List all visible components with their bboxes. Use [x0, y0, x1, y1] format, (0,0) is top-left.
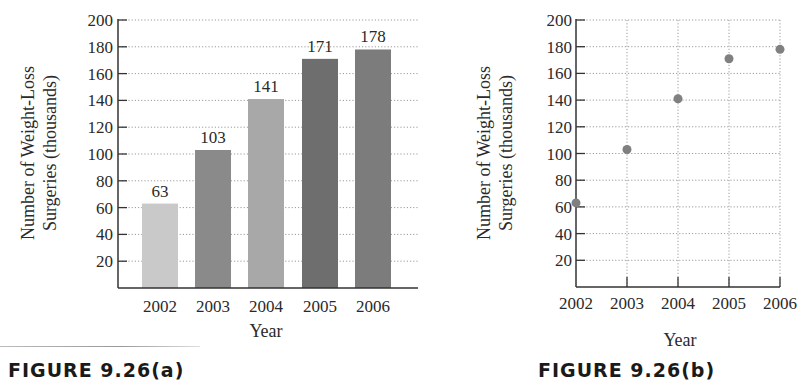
- svg-text:Number of Weight-Loss: Number of Weight-Loss: [474, 66, 494, 240]
- bar-value-label: 178: [360, 27, 386, 46]
- bar-chart-canvas: 2040608010012014016018020063200210320031…: [0, 0, 430, 388]
- bar-value-label: 103: [200, 128, 226, 147]
- divider-rule: [0, 346, 200, 347]
- y-tick-label: 180: [547, 38, 573, 57]
- bar-2003: [195, 150, 231, 288]
- svg-text:Number of Weight-Loss: Number of Weight-Loss: [18, 66, 38, 240]
- figure-b-scatter-plot: 2040608010012014016018020020022003200420…: [460, 0, 802, 388]
- y-tick-label: 80: [555, 171, 572, 190]
- y-tick-label: 100: [88, 145, 114, 164]
- y-tick-label: 140: [547, 91, 573, 110]
- figure-a-caption: FIGURE 9.26(a): [8, 359, 184, 381]
- x-tick-label: 2006: [763, 294, 797, 313]
- x-tick-label: 2003: [196, 297, 230, 316]
- data-point-2002: [572, 198, 581, 207]
- y-tick-label: 120: [547, 118, 573, 137]
- y-tick-label: 160: [88, 65, 114, 84]
- x-tick-label: 2003: [610, 294, 644, 313]
- x-tick-label: 2006: [356, 297, 390, 316]
- y-tick-label: 20: [96, 252, 113, 271]
- y-tick-label: 180: [88, 38, 114, 57]
- x-axis-label: Year: [663, 330, 696, 350]
- bar-value-label: 171: [307, 37, 333, 56]
- bar-value-label: 63: [152, 182, 169, 201]
- y-tick-label: 200: [547, 11, 573, 30]
- y-tick-label: 100: [547, 145, 573, 164]
- x-axis-label: Year: [249, 321, 282, 341]
- scatter-plot-canvas: 2040608010012014016018020020022003200420…: [460, 0, 802, 388]
- bar-2002: [142, 204, 178, 288]
- data-point-2003: [623, 145, 632, 154]
- y-tick-label: 140: [88, 91, 114, 110]
- svg-text:Surgeries (thousands): Surgeries (thousands): [496, 75, 517, 231]
- y-tick-label: 40: [555, 225, 572, 244]
- x-tick-label: 2002: [143, 297, 177, 316]
- x-tick-label: 2005: [303, 297, 337, 316]
- bar-2005: [302, 59, 338, 288]
- y-tick-label: 60: [555, 198, 572, 217]
- y-tick-label: 40: [96, 225, 113, 244]
- y-tick-label: 200: [88, 11, 114, 30]
- y-tick-label: 160: [547, 64, 573, 83]
- data-point-2006: [776, 45, 785, 54]
- figure-b-caption: FIGURE 9.26(b): [538, 359, 715, 381]
- svg-text:Surgeries (thousands): Surgeries (thousands): [40, 75, 61, 231]
- bar-value-label: 141: [253, 77, 279, 96]
- x-tick-label: 2005: [712, 294, 746, 313]
- figure-a-bar-chart: 2040608010012014016018020063200210320031…: [0, 0, 430, 388]
- x-tick-label: 2002: [559, 294, 593, 313]
- data-point-2004: [674, 94, 683, 103]
- data-point-2005: [725, 54, 734, 63]
- y-tick-label: 120: [88, 118, 114, 137]
- y-axis-label: Number of Weight-LossSurgeries (thousand…: [18, 66, 61, 240]
- y-tick-label: 20: [555, 251, 572, 270]
- x-tick-label: 2004: [661, 294, 696, 313]
- bar-2004: [248, 99, 284, 288]
- x-tick-label: 2004: [249, 297, 284, 316]
- y-tick-label: 80: [96, 172, 113, 191]
- bar-2006: [355, 49, 391, 288]
- y-tick-label: 60: [96, 199, 113, 218]
- y-axis-label: Number of Weight-LossSurgeries (thousand…: [474, 66, 517, 240]
